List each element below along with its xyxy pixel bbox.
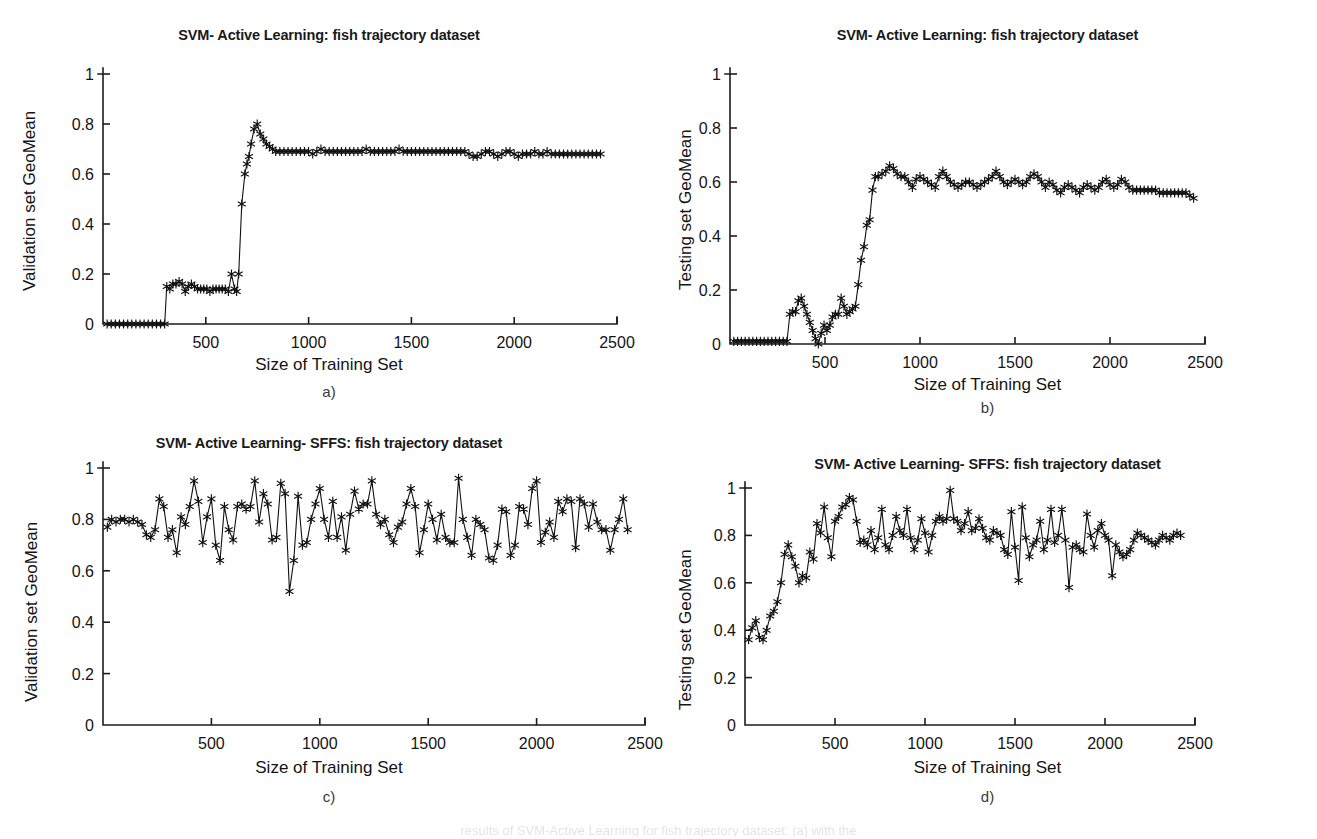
svg-text:0.2: 0.2: [72, 266, 94, 283]
svg-text:0.6: 0.6: [714, 575, 736, 592]
page-caption-fragment: results of SVM-Active Learning for fish …: [0, 823, 1317, 837]
panel-d-y-axis-label: Testing set GeoMean: [676, 549, 696, 710]
svg-text:0.4: 0.4: [72, 614, 94, 631]
panel-a-plot: 00.20.40.60.815001000150020002500: [0, 0, 658, 410]
panel-c-figure-label: c): [0, 788, 658, 805]
svg-text:0.2: 0.2: [714, 670, 736, 687]
svg-text:1500: 1500: [997, 354, 1033, 371]
panel-b-title: SVM- Active Learning: fish trajectory da…: [658, 27, 1317, 43]
svg-text:2500: 2500: [599, 334, 635, 351]
svg-text:500: 500: [198, 735, 225, 752]
svg-text:0.6: 0.6: [699, 174, 721, 191]
svg-text:0.2: 0.2: [72, 666, 94, 683]
panel-c-y-axis-label: Validation set GeoMean: [22, 522, 42, 702]
panel-b-plot: 00.20.40.60.815001000150020002500: [658, 0, 1317, 410]
svg-text:0.6: 0.6: [72, 166, 94, 183]
panel-d-figure-label: d): [658, 788, 1317, 805]
svg-text:2500: 2500: [1187, 354, 1223, 371]
svg-text:0: 0: [712, 336, 721, 353]
svg-text:0.8: 0.8: [699, 120, 721, 137]
svg-text:2000: 2000: [496, 334, 532, 351]
panel-c: SVM- Active Learning- SFFS: fish traject…: [0, 410, 658, 839]
panel-d-title: SVM- Active Learning- SFFS: fish traject…: [658, 456, 1317, 472]
svg-text:2000: 2000: [1092, 354, 1128, 371]
svg-text:0.6: 0.6: [72, 563, 94, 580]
svg-text:2000: 2000: [1087, 735, 1123, 752]
panel-b-y-axis-label: Testing set GeoMean: [676, 129, 696, 290]
figure-four-panel-chart: SVM- Active Learning: fish trajectory da…: [0, 0, 1317, 839]
svg-text:1000: 1000: [291, 334, 327, 351]
svg-text:0.4: 0.4: [72, 216, 94, 233]
svg-text:0.8: 0.8: [72, 116, 94, 133]
panel-b-x-axis-label: Size of Training Set: [658, 375, 1317, 395]
svg-text:500: 500: [192, 334, 219, 351]
panel-a-y-axis-label: Validation set GeoMean: [20, 111, 40, 291]
svg-text:1000: 1000: [902, 354, 938, 371]
panel-c-x-axis-label: Size of Training Set: [0, 758, 658, 778]
svg-text:0.8: 0.8: [72, 511, 94, 528]
svg-text:0.4: 0.4: [714, 622, 736, 639]
svg-text:2500: 2500: [1177, 735, 1213, 752]
svg-text:0.2: 0.2: [699, 282, 721, 299]
panel-d-x-axis-label: Size of Training Set: [658, 758, 1317, 778]
svg-text:0: 0: [85, 717, 94, 734]
svg-text:1000: 1000: [302, 735, 338, 752]
panel-a-x-axis-label: Size of Training Set: [0, 355, 658, 375]
panel-a-figure-label: a): [0, 383, 658, 400]
svg-text:0.4: 0.4: [699, 228, 721, 245]
svg-text:1: 1: [712, 66, 721, 83]
svg-text:500: 500: [812, 354, 839, 371]
svg-text:0: 0: [85, 316, 94, 333]
svg-text:1500: 1500: [410, 735, 446, 752]
panel-b: SVM- Active Learning: fish trajectory da…: [658, 0, 1317, 410]
svg-text:2000: 2000: [519, 735, 555, 752]
panel-a-title: SVM- Active Learning: fish trajectory da…: [0, 27, 658, 43]
panel-a: SVM- Active Learning: fish trajectory da…: [0, 0, 658, 410]
svg-text:500: 500: [822, 735, 849, 752]
svg-text:1000: 1000: [907, 735, 943, 752]
svg-text:1500: 1500: [394, 334, 430, 351]
svg-text:1: 1: [727, 480, 736, 497]
svg-text:1500: 1500: [997, 735, 1033, 752]
svg-text:1: 1: [85, 66, 94, 83]
svg-text:0.8: 0.8: [714, 527, 736, 544]
svg-text:0: 0: [727, 717, 736, 734]
svg-text:1: 1: [85, 460, 94, 477]
panel-d: SVM- Active Learning- SFFS: fish traject…: [658, 410, 1317, 839]
panel-c-title: SVM- Active Learning- SFFS: fish traject…: [0, 435, 658, 451]
